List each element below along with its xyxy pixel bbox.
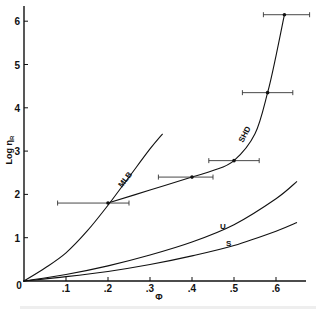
y-tick-label: 5 xyxy=(14,60,20,71)
y-tick-label: 4 xyxy=(14,103,20,114)
x-tick-label: .6 xyxy=(272,283,281,294)
x-tick-label: .5 xyxy=(230,283,239,294)
data-point xyxy=(232,159,236,163)
y-tick-label: 1 xyxy=(14,233,20,244)
curve-u xyxy=(24,181,297,281)
data-point xyxy=(190,175,194,179)
series-label-s: S xyxy=(226,239,232,248)
x-ticks: .1.2.3.4.5.6 xyxy=(62,277,281,294)
y-ticks: 123456 xyxy=(14,16,28,244)
x-tick-label: .4 xyxy=(188,283,197,294)
data-point xyxy=(266,91,270,95)
x-tick-label: .3 xyxy=(146,283,155,294)
curve-shd xyxy=(108,15,284,203)
series-label-u: U xyxy=(220,222,226,231)
caption-line xyxy=(20,306,316,309)
y-axis-title: Log ηR xyxy=(4,135,15,165)
y-tick-label: 3 xyxy=(14,146,20,157)
origin-label: 0 xyxy=(16,280,22,291)
y-tick-label: 2 xyxy=(14,189,20,200)
data-point xyxy=(106,201,110,205)
x-axis-title: Φ xyxy=(155,292,163,302)
x-tick-label: .2 xyxy=(104,283,113,294)
svg-text:Log ηR: Log ηR xyxy=(4,135,15,165)
error-bars xyxy=(58,12,310,205)
axes xyxy=(23,6,306,282)
chart: 123456 .1.2.3.4.5.6 0 Log ηR Φ MLB SHD U… xyxy=(0,0,316,313)
curves xyxy=(24,15,297,281)
curve-mlb xyxy=(24,134,163,281)
data-point xyxy=(283,13,287,17)
y-tick-label: 6 xyxy=(14,16,20,27)
x-tick-label: .1 xyxy=(62,283,71,294)
